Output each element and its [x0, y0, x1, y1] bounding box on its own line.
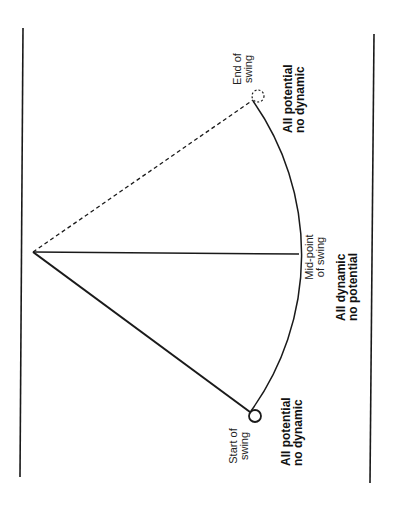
end-energy-line2: no dynamic: [294, 49, 306, 133]
start-energy-label: All potential no dynamic: [280, 380, 304, 466]
mid-point-label: Mid-point of swing: [304, 225, 326, 289]
mid-energy-line2: no potential: [347, 227, 359, 321]
start-bob-icon: [249, 410, 261, 422]
mid-energy-label: All dynamic no potential: [335, 227, 359, 321]
left-rule: [20, 28, 23, 477]
start-of-swing-label: Start of swing: [228, 423, 250, 469]
end-of-swing-label: End of swing: [232, 47, 254, 91]
string-end-position: [33, 100, 253, 252]
end-bob-icon: [252, 90, 264, 102]
mid-point-line2: of swing: [315, 225, 326, 289]
end-of-swing-line2: swing: [243, 47, 254, 91]
end-energy-label: All potential no dynamic: [282, 49, 306, 133]
start-of-swing-line2: swing: [239, 423, 250, 469]
start-energy-line2: no dynamic: [292, 380, 304, 466]
swing-arc: [251, 101, 302, 411]
pendulum-diagram: End of swing All potential no dynamic Mi…: [0, 0, 396, 515]
string-mid-position: [33, 252, 299, 254]
string-start-position: [33, 252, 250, 412]
right-rule: [370, 34, 374, 483]
